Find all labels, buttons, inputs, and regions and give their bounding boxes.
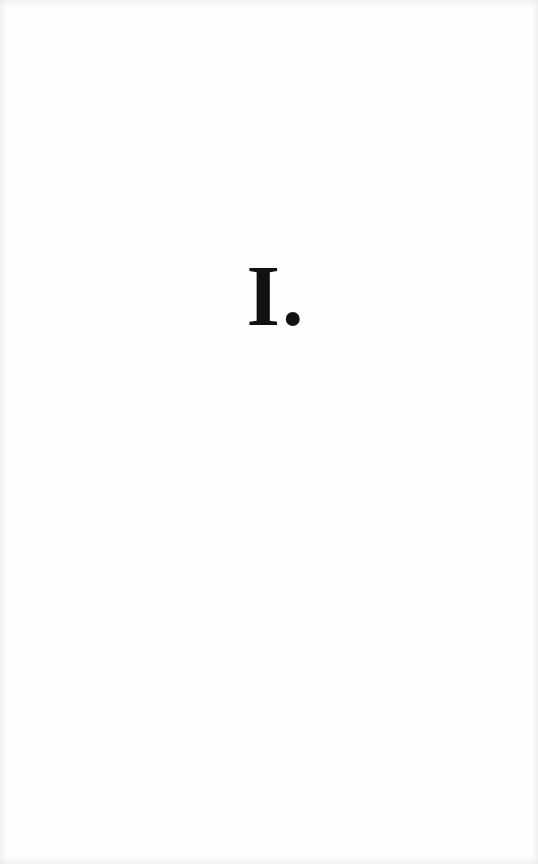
section-number-heading: I. <box>0 246 538 346</box>
book-page: I. <box>0 0 538 864</box>
